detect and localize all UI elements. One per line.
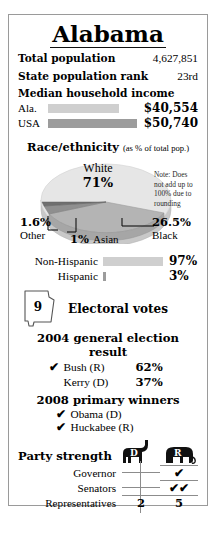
race-subheading-text: (as % of total pop.) [123,143,189,153]
svg-text:R: R [174,448,182,458]
pie-slice-pct: 1.6% [20,216,51,229]
race-heading-text: Race/ethnicity [27,140,119,154]
median-income-heading: Median household income [18,87,198,99]
winner-check-icon: ✔ [56,421,71,433]
title-container: Alabama [18,15,198,48]
stat-row-population-rank: State population rank 23rd [18,69,198,84]
hispanic-row-non-hispanic: Non-Hispanic 97% [18,254,198,268]
hispanic-row-label: Non-Hispanic [18,255,103,267]
income-bar [48,104,119,113]
hispanic-bar [103,272,106,281]
party-strength-title: Party strength [18,449,120,465]
electoral-votes-label: Electoral votes [62,302,168,316]
primary-winner-name: Obama (D) [71,408,161,420]
primary-winner-row-obama: ✔ Obama (D) [18,408,198,420]
stat-row-total-population: Total population 4,627,851 [18,51,198,66]
hispanic-row-label: Hispanic [18,270,103,282]
party-cell-d [122,472,160,473]
party-row-representatives: Representatives 2 5 [18,495,198,510]
candidate-row-kerry: ✔ Kerry (D) 37% [18,375,198,389]
pie-slice-pct: 26.5% [152,216,191,229]
stat-label: State population rank [18,69,148,83]
party-row-label: Representatives [18,497,122,509]
candidate-name: Bush (R) [64,361,136,373]
party-strength-table: Party strength D R Governor ✔ [18,439,198,510]
primary-winner-row-huckabee: ✔ Huckabee (R) [18,421,198,433]
primary-winners-heading: 2008 primary winners [18,393,198,407]
pie-label-asian: 1% Asian [70,229,119,247]
state-infographic-card: Alabama Total population 4,627,851 State… [8,14,208,506]
party-symbol-icons: D R [120,439,198,465]
candidate-name: Kerry (D) [64,376,136,388]
party-cell-d: 2 [122,495,160,510]
party-row-label: Governor [18,467,122,479]
race-pie-chart: White 71% Note: Does not add up to 100% … [18,156,198,252]
electoral-votes-section: 9 Electoral votes [18,288,198,330]
pie-label-white: White 71% [70,162,126,190]
stat-value: 4,627,851 [153,51,198,66]
party-cell-r: ✔ [160,465,198,480]
income-bar [48,119,137,128]
stat-label: Total population [18,51,115,65]
income-amount: $50,740 [137,116,198,130]
party-cell-d [122,487,160,488]
party-cell-r: 5 [160,495,198,510]
income-bar-track [48,119,137,128]
pie-slice-name: Asian [93,233,119,245]
income-row-label: Ala. [18,102,48,114]
stat-value: 23rd [177,69,198,84]
hispanic-pct: 97% [165,254,197,268]
income-row-usa: USA $50,740 [18,116,198,130]
winner-check-icon: ✔ [49,361,64,373]
party-row-label: Senators [18,482,122,494]
hispanic-chart: Non-Hispanic 97% Hispanic 3% [18,254,198,283]
income-bar-track [48,104,137,113]
candidate-pct: 62% [136,360,168,374]
median-income-chart: Ala. $40,554 USA $50,740 [18,101,198,130]
general-election-heading: 2004 general election result [18,331,198,359]
pie-label-other: 1.6% Other [20,216,51,241]
pie-label-black: 26.5% Black [152,216,191,241]
party-strength-header-row: Party strength D R [18,439,198,465]
hispanic-bar-track [103,272,165,281]
hispanic-bar-track [103,257,165,266]
pie-slice-name: Other [20,229,51,242]
hispanic-row-hispanic: Hispanic 3% [18,269,198,283]
winner-check-icon: ✔ [56,408,71,420]
race-ethnicity-heading: Race/ethnicity (as % of total pop.) [18,137,198,155]
primary-winner-name: Huckabee (R) [71,421,161,433]
hispanic-bar [103,257,163,266]
democrat-donkey-icon: D [120,439,156,465]
pie-chart-note: Note: Does not add up to 100% due to rou… [154,170,198,208]
pie-slice-pct: 1% [70,232,89,246]
pie-slice-name: Black [152,229,191,242]
page-title: Alabama [50,22,166,48]
income-row-label: USA [18,117,48,129]
alabama-state-outline-icon: 9 [18,288,62,330]
income-row-state: Ala. $40,554 [18,101,198,115]
pie-slice-pct: 71% [70,176,126,191]
hispanic-pct: 3% [165,269,189,283]
party-cell-r: ✔✔ [160,480,198,495]
svg-text:D: D [130,448,138,458]
party-row-senators: Senators ✔✔ [18,480,198,495]
electoral-votes-count: 9 [18,300,58,314]
republican-elephant-icon: R [162,439,198,465]
candidate-pct: 37% [136,375,168,389]
income-amount: $40,554 [137,101,198,115]
party-row-governor: Governor ✔ [18,465,198,480]
candidate-row-bush: ✔ Bush (R) 62% [18,360,198,374]
pie-slice-name: White [70,162,126,175]
